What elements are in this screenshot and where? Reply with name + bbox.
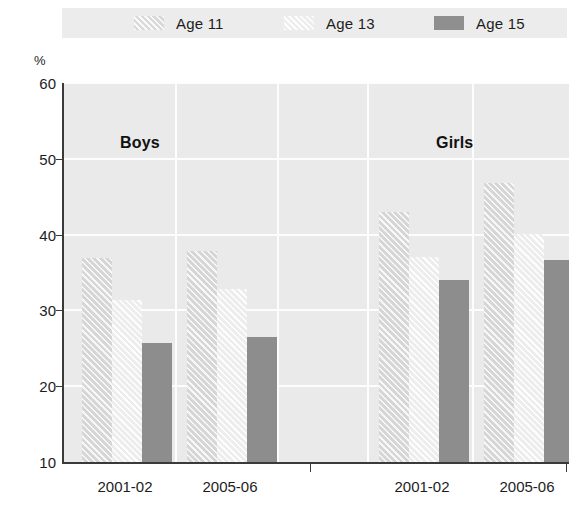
legend-item-age-15: Age 15 [434,15,525,32]
bar-age11-boys-2001-02 [82,258,112,462]
y-axis-tick-label: 10 [4,454,56,471]
y-axis-tick-label: 50 [4,150,56,167]
bar-age15-boys-2005-06 [247,337,277,462]
legend-label-age-11: Age 11 [176,15,224,32]
bar-age11-boys-2005-06 [187,251,217,462]
x-axis-tick-label: 2005-06 [499,478,554,495]
bar-age15-girls-2005-06 [544,260,569,462]
x-axis-tick-label: 2001-02 [97,478,152,495]
x-axis-tick-label: 2005-06 [202,478,257,495]
y-axis-tick-label: 40 [4,226,56,243]
x-axis-tick-mark [566,464,567,472]
legend-label-age-15: Age 15 [476,15,525,32]
gridline-vertical [277,83,279,462]
bar-age13-boys-2001-02 [112,300,142,462]
gridline-vertical [367,83,369,462]
group-title-boys: Boys [120,134,160,152]
y-axis-tick-label: 60 [4,75,56,92]
group-title-girls: Girls [436,134,473,152]
bar-age11-girls-2005-06 [484,183,514,462]
y-axis-tick-label: 30 [4,302,56,319]
gridline-horizontal [64,83,569,84]
legend-swatch-age-11-icon [134,16,164,30]
gridline-vertical [175,83,177,462]
x-axis-tick-labels: 2001-022005-062001-022005-06 [0,470,587,498]
gridline-horizontal [64,158,569,160]
bar-age13-girls-2001-02 [409,257,439,462]
y-axis-tick-label: 20 [4,378,56,395]
legend-swatch-age-15-icon [434,16,464,30]
legend-item-age-13: Age 13 [284,15,375,32]
bar-age15-boys-2001-02 [142,343,172,462]
bar-age11-girls-2001-02 [379,212,409,462]
legend-item-age-11: Age 11 [134,15,224,32]
chart-legend: Age 11 Age 13 Age 15 [62,8,567,38]
y-axis-tick-labels: 102030405060 [0,0,56,512]
legend-swatch-age-13-icon [284,16,314,30]
bar-age13-boys-2005-06 [217,289,247,462]
x-axis-tick-label: 2001-02 [394,478,449,495]
legend-label-age-13: Age 13 [326,15,375,32]
bar-age15-girls-2001-02 [439,280,469,462]
x-axis-tick-mark [310,464,311,472]
bar-age13-girls-2005-06 [514,234,544,462]
